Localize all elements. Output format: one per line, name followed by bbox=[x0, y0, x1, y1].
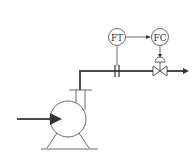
ft-label: FT bbox=[111, 33, 123, 43]
outlet-arrow-icon bbox=[183, 68, 189, 74]
control-valve bbox=[153, 57, 167, 76]
signal-arrow-icon bbox=[146, 35, 151, 39]
instrument-ft: FT bbox=[109, 29, 126, 46]
instrument-fc: FC bbox=[152, 29, 169, 46]
fc-label: FC bbox=[153, 33, 166, 43]
flow-control-diagram: FT FC bbox=[0, 0, 196, 165]
discharge-pipe bbox=[80, 71, 183, 90]
